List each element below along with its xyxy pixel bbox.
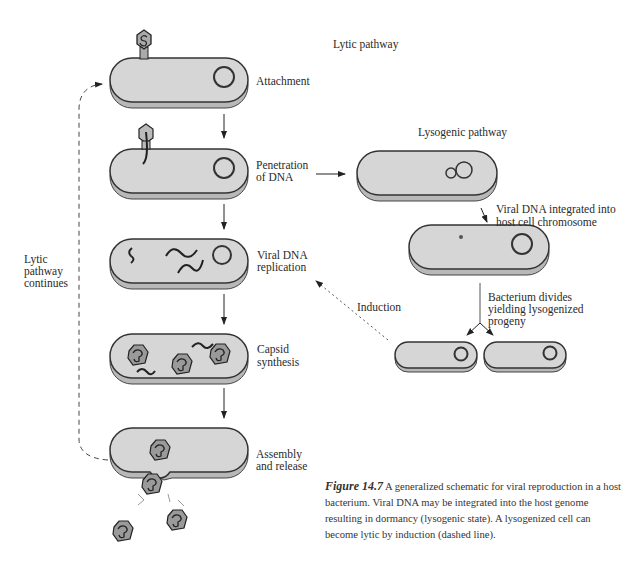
capsid-icon xyxy=(128,345,148,365)
cell-assembly-release xyxy=(110,428,248,541)
heading-lytic: Lytic pathway xyxy=(333,37,398,51)
capsid-icon xyxy=(210,344,230,364)
lytic-continues-arrow xyxy=(79,84,108,460)
capsid-icon xyxy=(172,354,192,374)
label-induction: Induction xyxy=(357,300,401,314)
label-continues-3: continues xyxy=(24,276,68,290)
figure-number: Figure 14.7 xyxy=(325,479,383,493)
label-attachment: Attachment xyxy=(256,74,310,88)
figure-caption: Figure 14.7 A generalized schematic for … xyxy=(325,478,625,543)
cell-penetration xyxy=(110,124,248,199)
label-penetration-2: of DNA xyxy=(256,170,293,184)
cell-lysogenic-integrated xyxy=(409,225,549,275)
label-integrated-1: Viral DNA integrated into xyxy=(496,202,616,216)
daughter-cell-left xyxy=(395,342,477,372)
daughter-cell-right xyxy=(484,342,566,372)
cell-capsid-synthesis xyxy=(110,334,248,384)
label-assembly-2: and release xyxy=(256,459,307,473)
capsid-icon xyxy=(113,521,133,541)
label-capsid-1: Capsid xyxy=(257,342,289,356)
label-integrated-2: host cell chromosome xyxy=(496,215,597,229)
cell-dna-replication xyxy=(110,239,248,289)
phage-icon xyxy=(137,30,151,59)
label-capsid-2: synthesis xyxy=(257,355,299,369)
cell-attachment xyxy=(110,30,248,108)
capsid-icon xyxy=(142,474,162,494)
label-divides-3: progeny xyxy=(488,314,526,328)
label-replication-2: replication xyxy=(257,260,306,274)
cell-lysogenic-entry xyxy=(357,151,497,201)
capsid-icon xyxy=(150,440,170,460)
heading-lysogenic: Lysogenic pathway xyxy=(418,125,507,139)
capsid-icon xyxy=(167,510,187,530)
